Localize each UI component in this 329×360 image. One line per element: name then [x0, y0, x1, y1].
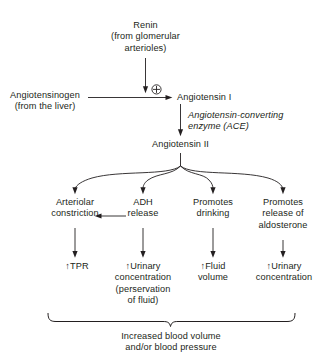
arrow-angiotensinogen-to-angiotensin1	[88, 95, 172, 100]
effect-promotes-aldosterone-label: Promotes release of aldosterone	[242, 197, 324, 231]
node-angiotensin-1-label: Angiotensin I	[177, 92, 287, 103]
effect-adh-release-label: ADH release	[108, 197, 178, 220]
arrow-effect1-to-outcome1	[72, 228, 77, 258]
summary-brace	[48, 313, 295, 327]
effect-promotes-drinking-label: Promotes drinking	[175, 197, 251, 220]
node-renin-label: Renin (from glomerular arterioles)	[71, 20, 221, 54]
arrow-renin-to-plus	[143, 58, 148, 93]
node-angiotensinogen-label: Angiotensinogen (from the liver)	[0, 90, 97, 113]
outcome-fluid-volume-label: ↑Fluid volume	[178, 261, 248, 284]
arrow-effect2-to-outcome2	[140, 228, 145, 258]
raas-flowchart-diagram: Renin (from glomerular arterioles) Angio…	[0, 0, 329, 360]
outcome-urinary-concentration-2-label: ↑Urinary concentration	[240, 261, 328, 284]
node-angiotensin-2-label: Angiotensin II	[121, 139, 241, 150]
arrow-effect3-to-outcome3	[210, 228, 215, 258]
arrow-effect4-to-outcome4	[280, 240, 285, 258]
arrow-fanout-angiotensin2-to-effects	[72, 153, 285, 194]
arrow-angiotensin1-to-angiotensin2	[178, 104, 183, 136]
plus-node-icon	[152, 85, 161, 94]
outcome-urinary-concentration-label: ↑Urinary concentration (perservation of …	[100, 261, 186, 307]
node-ace-enzyme-label: Angiotensin-converting enzyme (ACE)	[188, 110, 328, 133]
summary-label: Increased blood volume and/or blood pres…	[71, 331, 271, 354]
